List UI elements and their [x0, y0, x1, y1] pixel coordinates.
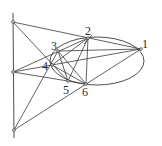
construction-line [13, 22, 141, 49]
diagram-figure [0, 0, 162, 146]
pascal-theorem-diagram: 1 2 3 4 5 6 [0, 0, 162, 146]
conic-ellipse [50, 37, 144, 85]
vertex-point-3 [57, 50, 60, 53]
point-label-4: 4 [42, 60, 48, 72]
intersection-point [12, 71, 15, 74]
intersection-point [13, 129, 16, 132]
vertex-point-4 [51, 64, 54, 67]
vertex-point-5 [67, 80, 70, 83]
construction-line [13, 22, 68, 81]
point-label-1: 1 [142, 38, 148, 50]
point-label-2: 2 [85, 25, 91, 37]
point-label-5: 5 [63, 84, 69, 96]
construction-line [58, 51, 86, 84]
construction-line [13, 49, 141, 72]
point-label-3: 3 [51, 40, 57, 52]
construction-line [14, 51, 58, 130]
construction-line [86, 38, 88, 84]
pascal-line [13, 13, 14, 138]
point-label-6: 6 [82, 86, 88, 98]
construction-line [58, 51, 68, 81]
intersection-point [12, 21, 15, 24]
